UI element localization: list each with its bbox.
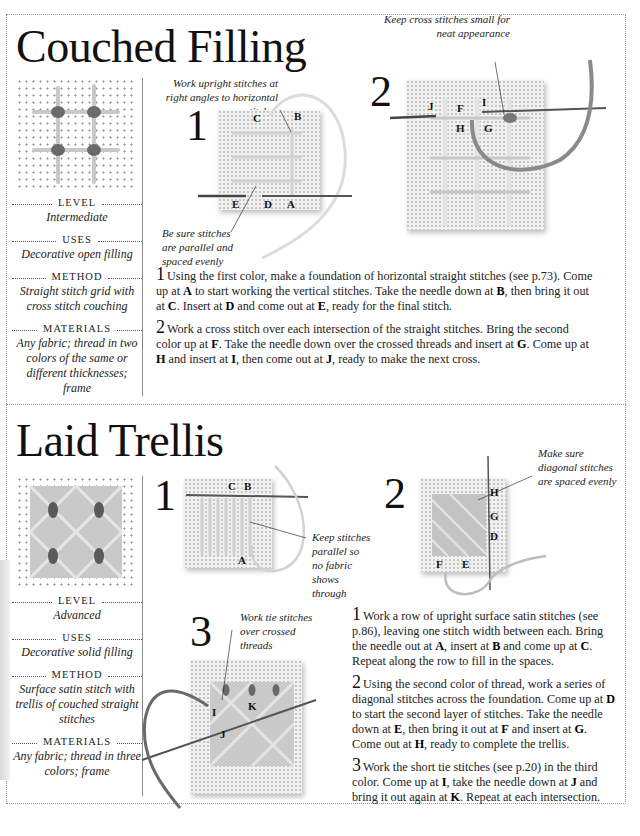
instructions-laid-trellis: 1Work a row of upright surface satin sti… [352,608,616,812]
point-label: I [212,706,216,718]
point-label: J [220,728,226,740]
point-label: K [248,700,257,712]
instruction-step-3: 3Work the short tie stitches (see p.20) … [352,759,616,805]
instruction-step-2: 2Using the second color of thread, work … [352,676,616,752]
instruction-step-1: 1Work a row of upright surface satin sti… [352,608,616,669]
